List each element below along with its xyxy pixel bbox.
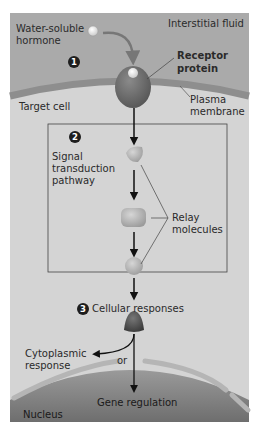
relay-label-line1: Relay [172,212,199,224]
hormone-label-line1: Water-soluble [16,23,84,35]
cytoplasmic-label-line1: Cytoplasmic [25,348,86,360]
pathway-label-line3: pathway [52,175,95,187]
pathway-label-line2: transduction [52,163,115,175]
hormone-label-line2: hormone [16,35,61,47]
target-cell-label: Target cell [19,101,70,113]
receptor-label-line2: protein [177,63,218,75]
signal-transduction-diagram: Interstitial fluid Water-soluble hormone… [0,0,253,426]
step-1-badge: 1 [68,56,80,68]
relay-label-line2: molecules [172,224,223,236]
pathway-label-line1: Signal [52,151,83,163]
gene-regulation-label: Gene regulation [97,397,177,409]
cellular-responses-label: Cellular responses [92,303,184,315]
relay-molecule-3 [125,257,143,275]
free-hormone [88,26,98,36]
membrane-label-line2: membrane [190,106,245,118]
cytoplasmic-label-line2: response [25,360,70,372]
step-2-badge: 2 [69,131,81,143]
relay-molecule-2 [121,208,146,227]
interstitial-fluid-label: Interstitial fluid [168,18,244,30]
or-label: or [117,355,127,367]
nucleus-label: Nucleus [23,409,63,421]
bound-hormone [128,68,138,78]
membrane-label-line1: Plasma [190,94,226,106]
step-3-badge: 3 [77,303,89,315]
receptor-label-line1: Receptor [177,50,228,62]
